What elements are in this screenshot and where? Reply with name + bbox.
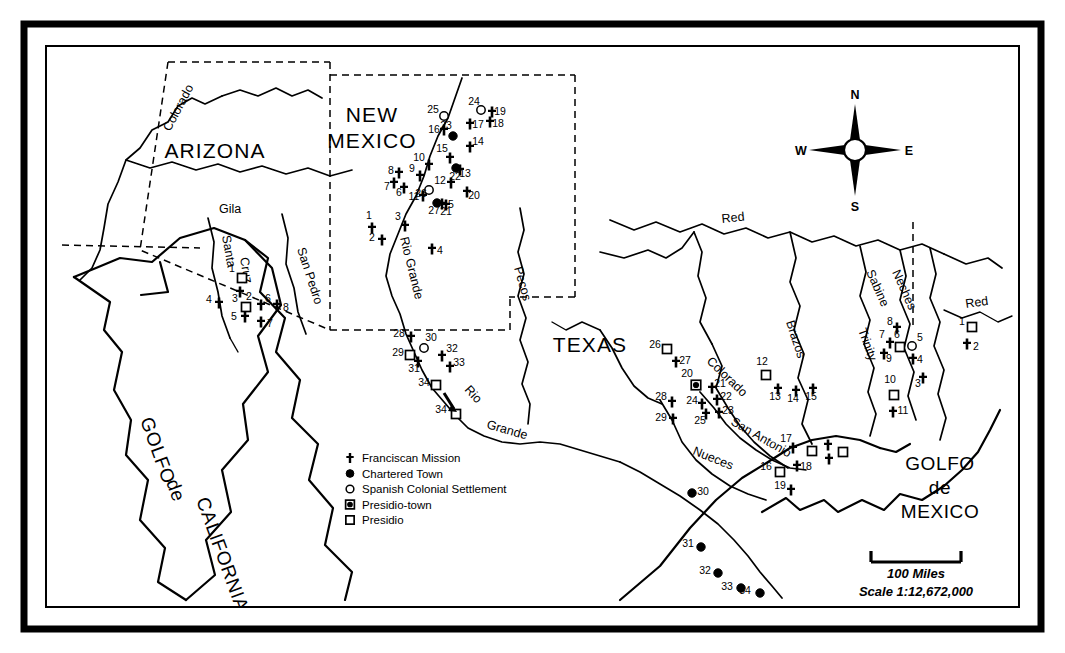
presidio-symbol-29 xyxy=(406,351,415,360)
symbol-number-label: 13 xyxy=(769,390,781,402)
symbol-number-label: 1 xyxy=(229,262,235,274)
symbol-number-label: 21 xyxy=(714,377,726,389)
map-canvas: Colorado Gila Santa Cruz San Pedro Rio G… xyxy=(0,0,1065,653)
spanish-colonial-settlement-symbol-25 xyxy=(440,112,448,120)
symbol-number-label: 12 xyxy=(434,174,446,186)
symbol-number-label: 2 xyxy=(973,340,979,352)
compass-west-label: W xyxy=(795,144,807,158)
legend-item: Presidio xyxy=(346,514,404,526)
symbol-number-label: 19 xyxy=(494,105,506,117)
presidio-symbol xyxy=(346,516,354,524)
gulf-mexico-line2: de xyxy=(929,477,951,498)
legend-item: Franciscan Mission xyxy=(346,452,460,464)
symbol-number-label: 34 xyxy=(418,376,430,388)
symbol-number-label: 5 xyxy=(917,331,923,343)
symbol-number-label: 14 xyxy=(787,392,799,404)
symbol-number-label: 20 xyxy=(468,189,480,201)
compass-north-label: N xyxy=(850,88,859,102)
symbol-number-label: 34 xyxy=(435,403,447,415)
symbol-number-label: 23 xyxy=(722,404,734,416)
presidio-symbol-1 xyxy=(238,274,247,283)
symbol-number-label: 29 xyxy=(392,346,404,358)
presidio-symbol-6 xyxy=(896,343,905,352)
symbol-number-label: 33 xyxy=(721,580,733,592)
legend-item-label: Franciscan Mission xyxy=(362,452,460,464)
symbol-number-label: 6 xyxy=(396,186,402,198)
symbol-number-label: 7 xyxy=(267,317,273,329)
presidio-symbol-12 xyxy=(762,371,771,380)
symbol-number-label: 8 xyxy=(283,301,289,313)
presidio-symbol-17b xyxy=(808,447,817,456)
symbol-number-label: 18 xyxy=(492,117,504,129)
region-label-texas: TEXAS xyxy=(553,333,627,356)
symbol-number-label: 15 xyxy=(805,390,817,402)
compass-south-label: S xyxy=(851,200,859,214)
river-label-red-north: Red xyxy=(721,210,745,226)
symbol-number-label: 31 xyxy=(682,537,694,549)
presidio-symbol-18b xyxy=(839,448,848,457)
symbol-number-label: 9 xyxy=(886,352,892,364)
symbol-number-label: 22 xyxy=(449,170,461,182)
symbol-number-label: 16 xyxy=(428,123,440,135)
symbol-number-label: 5 xyxy=(231,310,237,322)
symbol-number-label: 30 xyxy=(425,331,437,343)
symbol-number-label: 3 xyxy=(915,377,921,389)
symbol-number-label: 17 xyxy=(780,432,792,444)
legend-item: Spanish Colonial Settlement xyxy=(346,483,507,495)
symbol-number-label: 4 xyxy=(437,244,443,256)
symbol-number-label: 16 xyxy=(760,460,772,472)
symbol-number-label: 30 xyxy=(697,485,709,497)
symbol-number-label: 19 xyxy=(774,479,786,491)
symbol-number-label: 6 xyxy=(265,292,271,304)
legend-item-label: Presidio-town xyxy=(362,499,432,511)
presidio-town-symbol-20 xyxy=(691,380,701,390)
symbol-number-label: 25 xyxy=(694,414,706,426)
symbol-number-label: 21 xyxy=(440,205,452,217)
chartered-town-symbol-31 xyxy=(697,543,705,551)
symbol-number-label: 32 xyxy=(446,342,458,354)
river-label-gila: Gila xyxy=(219,202,241,216)
spanish-colonial-settlement-symbol-30 xyxy=(420,344,428,352)
chartered-town-symbol-30 xyxy=(688,489,696,497)
compass-east-label: E xyxy=(905,144,913,158)
presidio-symbol-10 xyxy=(890,391,899,400)
symbol-number-label: 14 xyxy=(472,135,484,147)
legend-item-label: Spanish Colonial Settlement xyxy=(362,483,507,495)
presidio-symbol-34 xyxy=(432,381,441,390)
region-label-new-mexico-line2: MEXICO xyxy=(327,129,416,152)
symbol-number-label: 1 xyxy=(959,315,965,327)
symbol-number-label: 4 xyxy=(206,293,212,305)
legend-item-label: Presidio xyxy=(362,514,404,526)
symbol-number-label: 27 xyxy=(679,354,691,366)
symbol-number-label: 31 xyxy=(408,362,420,374)
scale-ratio-label: Scale 1:12,672,000 xyxy=(859,584,974,599)
spanish-colonial-settlement-symbol-24 xyxy=(477,106,485,114)
symbol-number-label: 1 xyxy=(366,209,372,221)
gulf-mexico-line3: MEXICO xyxy=(901,501,980,522)
symbol-number-label: 3 xyxy=(395,210,401,222)
symbol-number-label: 33 xyxy=(453,356,465,368)
symbol-number-label: 32 xyxy=(699,564,711,576)
chartered-town-symbol-34 xyxy=(756,589,764,597)
symbol-number-label: 9 xyxy=(409,162,415,174)
symbol-number-label: 28 xyxy=(393,327,405,339)
symbol-number-label: 24 xyxy=(686,394,698,406)
symbol-number-label: 29 xyxy=(655,411,667,423)
symbol-number-label: 24 xyxy=(468,95,480,107)
symbol-number-label: 7 xyxy=(384,180,390,192)
chartered-town-symbol-32 xyxy=(714,569,722,577)
chartered-town-symbol xyxy=(346,470,354,478)
region-label-arizona: ARIZONA xyxy=(164,139,265,162)
historical-map-figure: Colorado Gila Santa Cruz San Pedro Rio G… xyxy=(0,0,1065,653)
symbol-number-label: 10 xyxy=(884,373,896,385)
symbol-number-label: 8 xyxy=(388,164,394,176)
symbol-number-label: 26 xyxy=(415,187,427,199)
presidio-symbol-1 xyxy=(968,323,977,332)
spanish-colonial-settlement-symbol-5 xyxy=(908,342,916,350)
scale-bar-distance-label: 100 Miles xyxy=(887,566,945,581)
symbol-number-label: 8 xyxy=(887,315,893,327)
symbol-number-label: 10 xyxy=(413,151,425,163)
presidio-town-symbol xyxy=(346,500,355,509)
gulf-mexico-line1: GOLFO xyxy=(905,453,975,474)
symbol-number-label: 2 xyxy=(369,231,375,243)
